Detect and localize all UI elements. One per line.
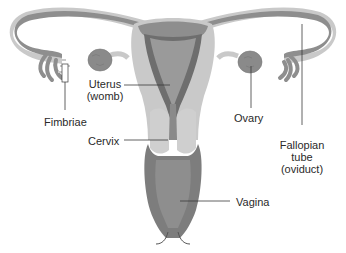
label-fallopian-tube: Fallopian tube (oviduct)	[278, 139, 326, 175]
vagina	[144, 144, 201, 244]
label-uterus: Uterus (womb)	[84, 78, 126, 102]
fallopian-tube-right	[196, 7, 336, 80]
label-fallopian-line2: tube	[278, 151, 326, 163]
label-fallopian-line1: Fallopian	[278, 139, 326, 151]
reproductive-diagram: Uterus (womb) Fimbriae Cervix Ovary Fall…	[0, 0, 346, 253]
uterus	[131, 18, 215, 154]
fallopian-tube-left	[10, 7, 150, 82]
label-uterus-line2: (womb)	[84, 90, 126, 102]
label-ovary: Ovary	[234, 112, 263, 124]
label-uterus-line1: Uterus	[84, 78, 126, 90]
label-fimbriae: Fimbriae	[44, 116, 87, 128]
ovary-left	[88, 49, 128, 71]
label-cervix: Cervix	[88, 135, 119, 147]
ovary-right	[218, 51, 262, 73]
label-vagina: Vagina	[236, 196, 269, 208]
label-fallopian-line3: (oviduct)	[278, 163, 326, 175]
